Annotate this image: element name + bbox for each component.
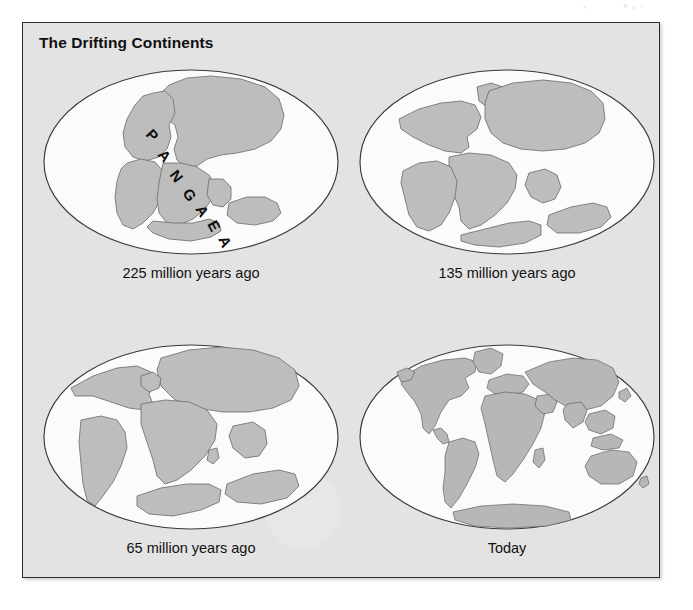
globe-caption-135mya: 135 million years ago (357, 265, 657, 281)
globe-map-225mya: P A N G A E A (41, 63, 341, 261)
globe-panel-today: Today (357, 338, 657, 588)
globe-caption-225mya: 225 million years ago (41, 265, 341, 281)
landmass-new-zealand (639, 476, 649, 488)
globe-caption-65mya: 65 million years ago (41, 540, 341, 556)
globe-map-135mya (357, 63, 657, 261)
globe-panel-135mya: 135 million years ago (357, 63, 657, 313)
figure-panel: The Drifting Continents (22, 22, 660, 578)
globe-caption-today: Today (357, 540, 657, 556)
figure-title: The Drifting Continents (39, 34, 214, 52)
landmass-eurasia (485, 80, 605, 151)
landmass-group (71, 347, 299, 516)
landmass-australia (227, 197, 281, 225)
globe-panel-225mya: P A N G A E A 225 million years ago (41, 63, 341, 313)
globe-panel-65mya: 65 million years ago (41, 338, 341, 588)
globe-map-today (357, 338, 657, 536)
scan-artifact (565, 2, 675, 12)
globe-map-65mya (41, 338, 341, 536)
